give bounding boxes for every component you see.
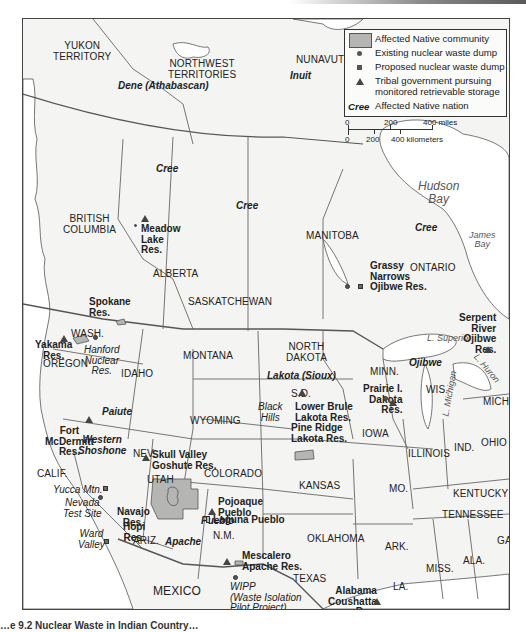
page-top-edge [0, 0, 526, 4]
label-tennessee: TENNESSEE [442, 510, 503, 521]
map-legend: Affected Native community Existing nucle… [344, 29, 507, 117]
proposed-dump-marker-grassy-narrows [358, 284, 363, 289]
legend-label: Affected Native community [375, 34, 489, 45]
legend-row-tribal-storage-cont: monitored retrievable storage [345, 87, 506, 99]
label-kentucky: KENTUCKY [453, 489, 508, 500]
label-minn: MINN. [370, 367, 399, 378]
legend-label: Affected Native nation [375, 101, 469, 112]
sixtieth-parallel [23, 94, 363, 144]
label-nm: N.M. [213, 531, 235, 542]
label-utah: UTAH [147, 475, 174, 486]
label-bc: BRITISHCOLUMBIA [63, 214, 116, 235]
label-james-bay: JamesBay [469, 231, 496, 250]
scale-km-0: 0 [345, 135, 349, 144]
site-ward-valley: WardValley [78, 529, 105, 550]
res-meadow-lake: MeadowLakeRes. [141, 224, 180, 256]
existing-dump-marker-manitoba [345, 284, 350, 289]
res-skull-valley: Skull ValleyGoshute Res. [152, 450, 216, 471]
label-montana: MONTANA [183, 351, 233, 362]
label-idaho: IDAHO [121, 369, 153, 380]
lake-michigan [421, 364, 432, 429]
tribal-storage-marker-meadow-lake [141, 215, 149, 222]
res-alabama-coushatta: AlabamaCoushattaRes. [328, 586, 377, 610]
label-mo: MO. [389, 484, 408, 495]
legend-label: Proposed nuclear waste dump [375, 62, 505, 73]
nation-ojibwe: Ojibwe [409, 358, 442, 369]
proposed-dump-marker-ward-valley [104, 539, 109, 544]
legend-row-nation: Cree Affected Native nation [345, 101, 506, 113]
tribal-storage-marker-fort-mcdermitt [85, 416, 93, 423]
legend-label: Existing nuclear waste dump [375, 48, 497, 59]
label-wis: WIS. [426, 385, 448, 396]
label-ind: IND. [454, 443, 474, 454]
label-mexico: MEXICO [153, 585, 201, 598]
proposed-dump-icon [357, 65, 362, 70]
arctic-island [293, 19, 363, 29]
arctic-island [173, 43, 209, 59]
scale-km-200: 200 [366, 135, 379, 144]
existing-dump-marker-wipp [233, 575, 238, 580]
label-nunavut: NUNAVUT [296, 55, 344, 66]
tribal-storage-marker-prairie-island [389, 399, 397, 406]
res-grassy-narrows: GrassyNarrowsOjibwe Res. [370, 261, 427, 293]
tribal-storage-marker-yakama [60, 335, 68, 342]
figure-caption: …e 9.2 Nuclear Waste in Indian Country… [0, 620, 526, 632]
label-oklahoma: OKLAHOMA [307, 534, 364, 545]
label-yukon: YUKONTERRITORY [53, 41, 111, 62]
res-fort-mcdermitt: FortMcDermittRes. [45, 426, 94, 458]
label-iowa: IOWA [362, 429, 389, 440]
label-ala: ALA. [463, 556, 485, 567]
pine-ridge-community [295, 450, 314, 460]
nation-dene: Dene (Athabascan) [118, 81, 209, 92]
scale-bar: 0 200 400 miles 0 200 400 kilometers [345, 117, 465, 147]
legend-row-community: Affected Native community [345, 34, 506, 46]
scale-km-400: 400 kilometers [391, 135, 443, 144]
label-alberta: ALBERTA [153, 269, 198, 280]
label-ga: GA. [497, 536, 510, 547]
nation-cree-sask: Cree [236, 201, 258, 212]
nation-sample-text: Cree [348, 101, 369, 112]
community-marker-meadow-lake [134, 224, 137, 227]
res-lower-brule: Lower BruleLakota Res. [295, 402, 353, 423]
site-wipp: WIPP(Waste IsolationPilot Project)Carlsb… [230, 582, 302, 610]
existing-dump-marker-hanford [93, 335, 98, 340]
label-manitoba: MANITOBA [306, 231, 359, 242]
tribal-storage-marker-serpent-river [484, 346, 492, 353]
tribal-storage-marker-mescalero [223, 558, 231, 565]
label-nwt: NORTHWESTTERRITORIES [168, 59, 236, 80]
map-frame: YUKONTERRITORY NORTHWESTTERRITORIES NUNA… [22, 18, 510, 610]
label-wyoming: WYOMING [190, 416, 241, 427]
nation-inuit: Inuit [290, 71, 311, 82]
tribal-storage-marker-lower-brule [298, 389, 306, 396]
site-yucca-mountain: Yucca Mtn. [53, 485, 103, 496]
label-saskatchewan: SASKATCHEWAN [188, 297, 272, 308]
legend-label: Tribal government pursuing [375, 76, 491, 87]
tribal-storage-triangle-icon [356, 78, 364, 85]
site-hanford: HanfordNuclearRes. [84, 345, 120, 377]
community-swatch-icon [349, 33, 372, 48]
community-marker-laguna [206, 516, 210, 523]
nation-cree-nw: Cree [156, 164, 178, 175]
proposed-dump-marker-yucca [103, 486, 108, 491]
scale-tick [432, 125, 433, 130]
tribal-storage-marker-alabama-coushatta [373, 598, 381, 605]
nation-lakota: Lakota (Sioux) [267, 371, 336, 382]
res-spokane: SpokaneRes. [89, 297, 131, 318]
label-black-hills: BlackHills [258, 402, 282, 423]
tribal-storage-marker-skull-valley [142, 454, 150, 461]
label-miss: MISS. [426, 564, 454, 575]
label-la: LA. [393, 582, 408, 593]
scale-tick [374, 129, 375, 134]
spokane-community [116, 319, 126, 325]
nation-apache: Apache [165, 537, 201, 548]
nation-paiute: Paiute [102, 407, 132, 418]
existing-dump-icon [357, 51, 362, 56]
nation-cree-ontario: Cree [415, 223, 437, 234]
res-yakama: YakamaRes. [35, 340, 72, 361]
label-illinois: ILLINOIS [408, 449, 450, 460]
scale-tick [390, 125, 391, 130]
res-mescalero: MescaleroApache Res. [242, 551, 302, 572]
legend-row-proposed-dump: Proposed nuclear waste dump [345, 62, 506, 74]
label-north-dakota: NORTHDAKOTA [286, 342, 327, 363]
lake-winnipeg [323, 239, 348, 284]
